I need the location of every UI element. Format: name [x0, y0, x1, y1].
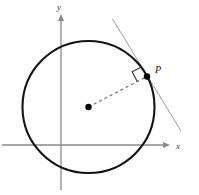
figure-background	[0, 0, 199, 195]
circle-center-dot	[85, 104, 91, 110]
tangent-point-dot	[144, 73, 150, 79]
geometry-diagram: P x y	[0, 0, 199, 195]
x-axis-label: x	[175, 141, 180, 151]
y-axis-label: y	[56, 2, 61, 12]
point-p-label: P	[154, 64, 161, 75]
figure-container: P x y	[0, 0, 199, 195]
